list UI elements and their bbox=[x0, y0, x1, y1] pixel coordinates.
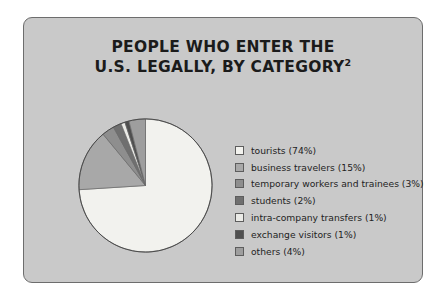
legend-swatch-business-travelers bbox=[235, 163, 244, 172]
legend-label-temporary-workers-and-trainees: temporary workers and trainees (3%) bbox=[251, 178, 424, 189]
legend: tourists (74%)business travelers (15%)te… bbox=[235, 142, 420, 260]
legend-label-business-travelers: business travelers (15%) bbox=[251, 162, 365, 173]
legend-label-intra-company-transfers: intra-company transfers (1%) bbox=[251, 212, 387, 223]
legend-swatch-intra-company-transfers bbox=[235, 213, 244, 222]
chart-title-line-2: U.S. LEGALLY, BY CATEGORY2 bbox=[24, 57, 422, 77]
legend-label-exchange-visitors: exchange visitors (1%) bbox=[251, 229, 356, 240]
legend-swatch-others bbox=[235, 247, 244, 256]
legend-item-business-travelers[interactable]: business travelers (15%) bbox=[235, 159, 420, 176]
legend-swatch-tourists bbox=[235, 146, 244, 155]
legend-item-others[interactable]: others (4%) bbox=[235, 243, 420, 260]
legend-swatch-students bbox=[235, 196, 244, 205]
chart-title-line-2-text: U.S. LEGALLY, BY CATEGORY bbox=[95, 58, 345, 76]
chart-title-line-1: PEOPLE WHO ENTER THE bbox=[24, 37, 422, 57]
legend-item-tourists[interactable]: tourists (74%) bbox=[235, 142, 420, 159]
legend-item-intra-company-transfers[interactable]: intra-company transfers (1%) bbox=[235, 209, 420, 226]
legend-item-temporary-workers-and-trainees[interactable]: temporary workers and trainees (3%) bbox=[235, 176, 420, 193]
pie-chart-svg bbox=[78, 118, 213, 253]
chart-title: PEOPLE WHO ENTER THE U.S. LEGALLY, BY CA… bbox=[24, 37, 422, 77]
legend-item-students[interactable]: students (2%) bbox=[235, 192, 420, 209]
pie-chart bbox=[78, 118, 213, 253]
legend-swatch-exchange-visitors bbox=[235, 230, 244, 239]
chart-title-footnote-marker: 2 bbox=[345, 57, 352, 68]
legend-label-others: others (4%) bbox=[251, 246, 305, 257]
legend-label-tourists: tourists (74%) bbox=[251, 145, 316, 156]
legend-label-students: students (2%) bbox=[251, 195, 316, 206]
legend-item-exchange-visitors[interactable]: exchange visitors (1%) bbox=[235, 226, 420, 243]
legend-swatch-temporary-workers-and-trainees bbox=[235, 179, 244, 188]
pie-slice-group bbox=[79, 119, 212, 252]
figure-panel: PEOPLE WHO ENTER THE U.S. LEGALLY, BY CA… bbox=[23, 17, 423, 283]
